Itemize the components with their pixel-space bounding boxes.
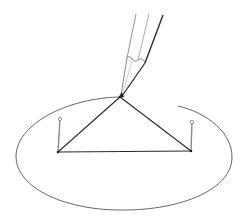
illustration-svg [0,0,244,220]
pencil-icon [118,14,163,98]
ellipse-curve [16,97,232,210]
ellipse-construction-illustration: Drawing an ellipse with two pins, a stri… [0,0,244,220]
left-pin-icon [58,117,62,152]
right-pin-icon [190,120,193,151]
string-loop [57,97,193,153]
